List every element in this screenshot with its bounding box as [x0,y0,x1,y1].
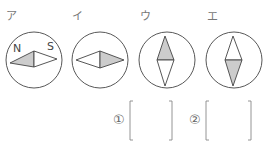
answer-bracket-1 [130,101,172,140]
svg-text:S: S [47,40,54,53]
compass-diagram: N S [0,0,263,145]
compass-u [139,32,195,88]
answer-number-1: ① [113,112,125,127]
compass-e [206,32,262,88]
compass-i [72,32,128,88]
compass-a: N S [6,32,62,88]
svg-text:N: N [13,42,21,55]
answer-bracket-2 [206,101,251,140]
answer-number-2: ② [189,112,201,127]
